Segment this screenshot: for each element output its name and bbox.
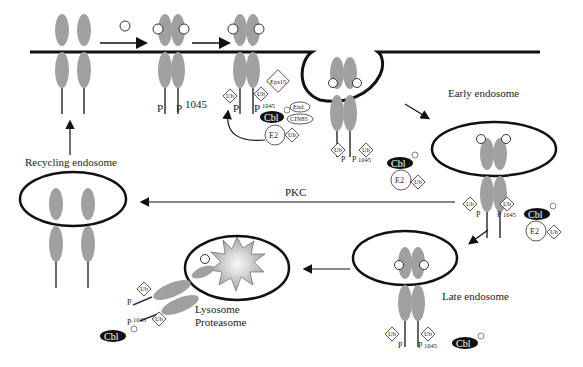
svg-text:P: P (176, 102, 182, 114)
svg-text:P: P (352, 155, 357, 164)
label-lysosome: Lysosome (195, 303, 240, 315)
svg-text:Cbl: Cbl (264, 112, 279, 123)
svg-text:Cbl: Cbl (104, 331, 119, 342)
svg-text:End: End (293, 103, 304, 110)
svg-text:P: P (341, 155, 346, 164)
svg-text:1045: 1045 (185, 98, 208, 110)
svg-text:Ub: Ub (503, 200, 511, 207)
svg-text:Ub: Ub (155, 315, 163, 322)
label-late-endosome: Late endosome (442, 290, 509, 302)
svg-text:Cbl: Cbl (391, 158, 406, 169)
ligand-icon (120, 21, 130, 31)
svg-text:1045: 1045 (262, 102, 275, 109)
svg-text:Ub: Ub (466, 200, 474, 207)
receptor-pair-unbound (55, 14, 91, 114)
svg-text:1045: 1045 (133, 316, 146, 323)
recycling-endosome (20, 172, 126, 226)
svg-text:Ub: Ub (388, 330, 396, 337)
svg-text:P: P (418, 341, 423, 350)
receptor-pair-recycling (49, 188, 95, 288)
svg-text:P: P (127, 298, 132, 307)
svg-text:Cbl: Cbl (528, 209, 543, 220)
svg-text:Ub: Ub (362, 146, 370, 153)
receptor-pair-bound: P P 1045 (153, 14, 208, 114)
svg-text:P: P (476, 210, 481, 219)
svg-text:E2: E2 (395, 176, 404, 185)
label-early-endosome: Early endosome (448, 87, 519, 99)
svg-text:P: P (127, 318, 132, 327)
svg-text:P: P (398, 341, 403, 350)
svg-text:CIN85: CIN85 (290, 115, 308, 122)
receptor-pair-cbl-recruited: Ub Ub P P 1045 Eps15 Cbl End CIN85 E2 Ub (223, 14, 313, 145)
svg-text:P: P (233, 102, 239, 114)
svg-text:Cbl: Cbl (456, 338, 471, 349)
svg-text:P: P (497, 210, 502, 219)
svg-text:Ub: Ub (288, 131, 296, 138)
svg-text:Eps15: Eps15 (270, 78, 286, 85)
svg-text:Ub: Ub (226, 92, 234, 99)
svg-text:Ub: Ub (140, 285, 148, 292)
svg-text:E2: E2 (530, 227, 539, 236)
svg-text:Ub: Ub (334, 146, 342, 153)
diagram-canvas: P P 1045 Ub Ub P P 1045 Eps15 Cbl End CI… (0, 0, 583, 367)
svg-text:Ub: Ub (257, 90, 265, 97)
label-pkc: PKC (285, 186, 306, 198)
svg-text:1045: 1045 (358, 156, 371, 163)
degradation-burst (210, 237, 265, 291)
receptor-pair-degraded: Ub Ub P P 1045 Cbl (100, 255, 216, 343)
svg-text:1045: 1045 (503, 211, 516, 218)
svg-text:P: P (254, 102, 260, 114)
label-recycling-endosome: Recycling endosome (25, 156, 117, 168)
svg-text:Ub: Ub (414, 178, 422, 185)
label-proteasome: Proteasome (195, 316, 246, 328)
receptor-pair-early-endosome: Ub Ub P P 1045 Cbl E2 Ub (463, 135, 561, 242)
svg-text:Ub: Ub (424, 330, 432, 337)
svg-text:1045: 1045 (424, 342, 437, 349)
svg-text:Ub: Ub (550, 228, 558, 235)
receptor-pair-internalizing: Ub Ub P P 1045 Cbl E2 Ub (329, 57, 426, 190)
svg-text:P: P (157, 102, 163, 114)
svg-text:E2: E2 (269, 131, 278, 140)
